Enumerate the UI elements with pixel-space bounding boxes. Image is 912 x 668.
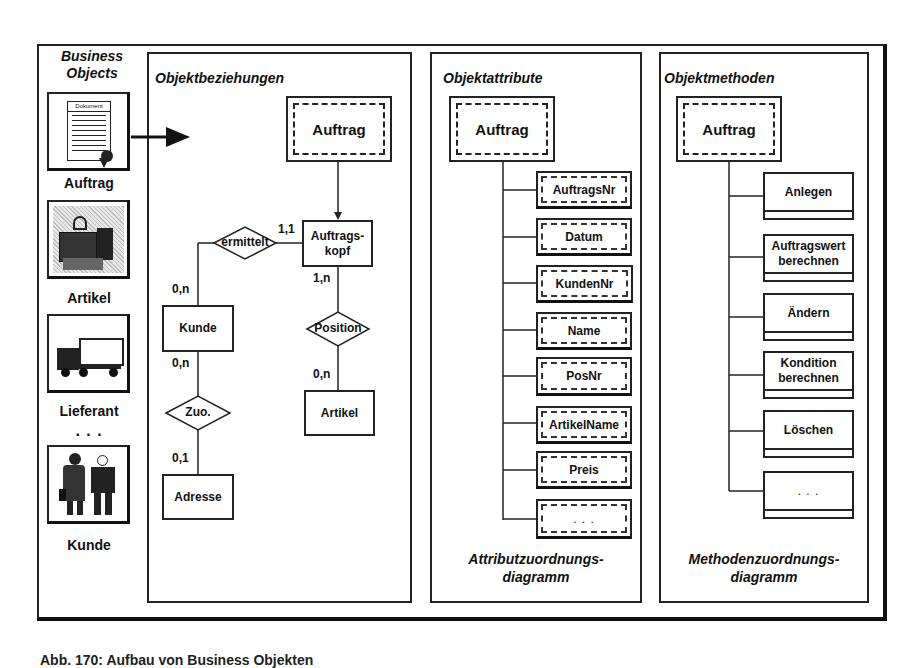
method-box: . . .: [763, 471, 854, 519]
method-diagram-caption: Methodenzuordnungs- diagramm: [659, 550, 869, 586]
object-label: Auftrag: [683, 103, 775, 155]
caption-line: diagramm: [659, 568, 869, 586]
cardinality: 1,n: [313, 271, 330, 285]
relationship-zuo: Zuo.: [166, 405, 230, 419]
method-label: . . .: [765, 473, 852, 511]
panel-title-objektmethoden: Objektmethoden: [664, 70, 774, 86]
method-box: Ändern: [763, 293, 854, 341]
panel-title-objektattribute: Objektattribute: [443, 70, 543, 86]
entity-adresse: Adresse: [162, 474, 234, 520]
method-label: Löschen: [765, 412, 852, 450]
attribute-diagram-caption: Attributzuordnungs- diagramm: [430, 550, 642, 586]
entity-artikel: Artikel: [304, 390, 375, 436]
attribute-label: PosNr: [541, 362, 627, 390]
attribute-box: Datum: [536, 218, 632, 256]
method-label: Anlegen: [765, 174, 852, 212]
caption-line: diagramm: [430, 568, 642, 586]
object-label: Auftrag: [456, 103, 548, 155]
attribute-label: Name: [541, 317, 627, 344]
attribute-label: . . .: [541, 504, 627, 533]
method-line: Löschen: [784, 423, 833, 438]
method-box: Löschen: [763, 410, 854, 458]
method-line: Anlegen: [785, 185, 832, 200]
method-label: Ändern: [765, 295, 852, 333]
method-label: Konditionberechnen: [765, 353, 852, 391]
relationship-position: Position: [307, 321, 369, 335]
attribute-box: ArtikelName: [536, 406, 632, 444]
object-auftrag-attr: Auftrag: [449, 96, 555, 162]
caption-line: Attributzuordnungs-: [430, 550, 642, 568]
entity-label: Auftrags-: [311, 229, 364, 244]
method-box: Anlegen: [763, 172, 854, 220]
cardinality: 0,n: [172, 356, 189, 370]
attribute-label: ArtikelName: [541, 411, 627, 438]
attribute-box: AuftragsNr: [536, 171, 632, 209]
cardinality: 0,n: [172, 282, 189, 296]
object-auftrag-er: Auftrag: [286, 96, 392, 162]
entity-label: kopf: [325, 244, 350, 259]
attribute-box: Name: [536, 312, 632, 350]
cardinality: 0,n: [313, 367, 330, 381]
method-line: Auftragswert: [771, 239, 845, 254]
cardinality: 1,1: [278, 222, 295, 236]
entity-auftragskopf: Auftrags- kopf: [302, 220, 373, 267]
attribute-box: PosNr: [536, 357, 632, 396]
method-line: berechnen: [778, 371, 839, 386]
cardinality: 0,1: [172, 451, 189, 465]
attribute-box: KundenNr: [536, 265, 633, 303]
method-line: Ändern: [788, 306, 830, 321]
figure-caption: Abb. 170: Aufbau von Business Objekten: [40, 652, 313, 668]
method-label: Auftragswertberechnen: [765, 236, 852, 274]
entity-kunde: Kunde: [162, 305, 234, 352]
method-line: berechnen: [771, 254, 845, 269]
object-label: Auftrag: [293, 103, 385, 155]
method-box: Konditionberechnen: [763, 351, 854, 399]
method-box: Auftragswertberechnen: [763, 234, 854, 282]
attribute-box: Preis: [536, 451, 632, 489]
attribute-label: AuftragsNr: [541, 176, 627, 203]
object-auftrag-meth: Auftrag: [676, 96, 782, 162]
attribute-box: . . .: [536, 499, 632, 539]
attribute-label: Datum: [541, 223, 627, 250]
attribute-label: Preis: [541, 456, 627, 483]
attribute-label: KundenNr: [541, 270, 628, 297]
relationship-ermittelt: ermittelt: [214, 235, 276, 249]
method-line: . . .: [798, 484, 820, 499]
panel-title-objektbeziehungen: Objektbeziehungen: [155, 70, 284, 86]
caption-line: Methodenzuordnungs-: [659, 550, 869, 568]
method-line: Kondition: [778, 356, 839, 371]
